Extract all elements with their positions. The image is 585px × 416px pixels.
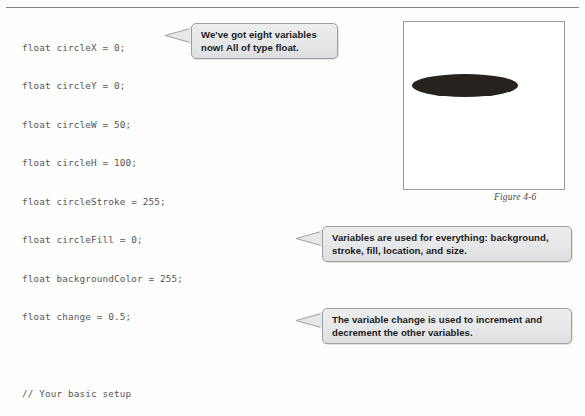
code-line: float circleFill = 0;	[22, 234, 322, 247]
callout-line: The variable change is used to increment…	[332, 314, 571, 327]
figure-panel	[403, 21, 565, 190]
figure-caption: Figure 4-6	[494, 192, 537, 202]
callout-text: Variables are used for everything: backg…	[332, 232, 571, 257]
callout-line: Variables are used for everything: backg…	[332, 232, 571, 245]
code-line: float backgroundColor = 255;	[22, 273, 322, 286]
callout-note: We've got eight variables now! All of ty…	[191, 23, 338, 59]
callout-note: The variable change is used to increment…	[322, 308, 572, 344]
callout-note: Variables are used for everything: backg…	[322, 226, 572, 262]
callout-line: We've got eight variables	[201, 29, 337, 42]
page-top-rule	[6, 7, 579, 8]
code-line-blank	[22, 350, 322, 363]
code-line: // Your basic setup	[22, 388, 322, 401]
code-line: float circleW = 50;	[22, 119, 322, 132]
callout-line: stroke, fill, location, and size.	[332, 245, 571, 258]
code-line: float circleY = 0;	[22, 80, 322, 93]
ellipse-shape	[412, 74, 518, 97]
callout-line: decrement the other variables.	[332, 327, 571, 340]
code-listing: float circleX = 0; float circleY = 0; fl…	[22, 16, 322, 416]
code-line: float change = 0.5;	[22, 311, 322, 324]
callout-line: now! All of type float.	[201, 42, 337, 55]
callout-text: The variable change is used to increment…	[332, 314, 571, 339]
callout-text: We've got eight variables now! All of ty…	[201, 29, 337, 54]
code-line: float circleStroke = 255;	[22, 196, 322, 209]
code-line: float circleH = 100;	[22, 157, 322, 170]
